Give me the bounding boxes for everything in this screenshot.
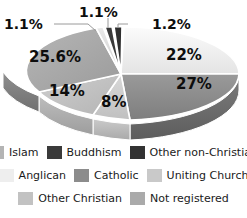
pie-label-anglican: 22% (166, 48, 202, 63)
legend-swatch-buddhism (47, 146, 62, 159)
pie-label-buddhism: 1.1% (79, 5, 118, 19)
chart-legend: Islam Buddhism Other non-Christian Angli… (0, 141, 247, 218)
pie-label-not-registered: 25.6% (29, 50, 81, 65)
legend-item-uniting-church[interactable]: Uniting Church (147, 169, 247, 182)
legend-swatch-catholic (74, 169, 89, 182)
legend-label-other-christian: Other Christian (38, 193, 122, 204)
legend-swatch-other-christian (18, 192, 33, 205)
legend-item-other-christian[interactable]: Other Christian (18, 192, 122, 205)
pie-label-uniting-church: 8% (101, 95, 126, 110)
pie-chart-plot: 1.1% 1.1% 1.2% 22% 27% 8% 14% 25.6% (0, 0, 247, 140)
legend-label-uniting-church: Uniting Church (167, 170, 247, 181)
pie-label-islam: 1.1% (4, 17, 43, 31)
legend-swatch-not-registered (130, 192, 145, 205)
legend-item-anglican[interactable]: Anglican (0, 169, 66, 182)
legend-label-buddhism: Buddhism (67, 147, 122, 158)
legend-swatch-anglican (0, 169, 14, 182)
pie-slices (26, 26, 239, 120)
legend-item-buddhism[interactable]: Buddhism (47, 146, 122, 159)
legend-swatch-islam (0, 146, 4, 159)
legend-label-other-non-christian: Other non-Christian (150, 147, 247, 158)
legend-item-islam[interactable]: Islam (0, 146, 39, 159)
pie-side-uniting (93, 119, 130, 140)
legend-item-not-registered[interactable]: Not registered (130, 192, 229, 205)
legend-row: Other Christian Not registered (0, 187, 247, 210)
legend-label-anglican: Anglican (19, 170, 66, 181)
legend-row: Islam Buddhism Other non-Christian (0, 141, 247, 164)
pie-label-other-non-christian: 1.2% (152, 17, 191, 31)
pie-label-catholic: 27% (176, 77, 212, 92)
pie-chart-figure: 1.1% 1.1% 1.2% 22% 27% 8% 14% 25.6% Isla… (0, 0, 247, 218)
legend-label-not-registered: Not registered (150, 193, 229, 204)
pie-label-other-christian: 14% (49, 84, 85, 99)
legend-label-islam: Islam (9, 147, 39, 158)
legend-item-catholic[interactable]: Catholic (74, 169, 139, 182)
legend-item-other-non-christian[interactable]: Other non-Christian (130, 146, 247, 159)
legend-label-catholic: Catholic (94, 170, 139, 181)
legend-swatch-other-non-christian (130, 146, 145, 159)
legend-swatch-uniting-church (147, 169, 162, 182)
legend-row: Anglican Catholic Uniting Church (0, 164, 247, 187)
